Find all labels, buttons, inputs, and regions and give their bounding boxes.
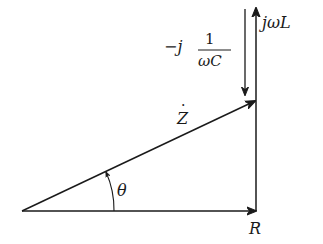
- z-label: · Z: [176, 97, 189, 128]
- impedance-triangle-diagram: jωL −j 1 ωC · Z θ R: [0, 0, 323, 244]
- capacitive-label-numerator: 1: [205, 30, 215, 48]
- capacitive-label: −j 1 ωC: [164, 30, 231, 70]
- theta-angle-arc: [106, 172, 114, 211]
- capacitive-label-prefix: −j: [164, 37, 182, 56]
- z-vector-arrow: [22, 101, 255, 211]
- r-label: R: [248, 219, 261, 238]
- capacitive-label-denominator: ωC: [198, 52, 222, 70]
- theta-label: θ: [117, 181, 127, 200]
- jwl-label: jωL: [259, 13, 291, 32]
- z-label-text: Z: [176, 109, 189, 128]
